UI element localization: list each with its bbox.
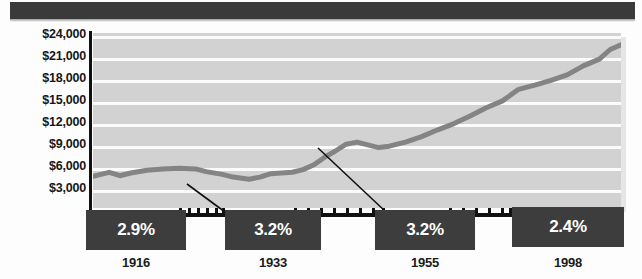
x-axis-label-1998: 1998 [512,255,624,270]
rate-value: 2.9% [117,220,155,240]
rate-value: 3.2% [254,220,292,240]
plot-area [93,33,621,208]
rate-box-1916: 2.9% [86,210,186,250]
rate-box-1955: 3.2% [375,210,475,250]
y-axis-tick-labels: $24,000 $21,000 $18,000 $15,000 $12,000 … [8,28,86,204]
y-tick-label: $15,000 [8,94,86,107]
y-tick-label: $3,000 [8,182,86,195]
rate-box-1933: 3.2% [225,210,321,250]
chart-figure: $24,000 $21,000 $18,000 $15,000 $12,000 … [0,0,642,279]
y-tick-label: $6,000 [8,160,86,173]
y-tick-label: $24,000 [8,28,86,41]
y-tick-label: $21,000 [8,50,86,63]
rate-value: 2.4% [549,217,587,237]
header-banner-bar [10,2,635,19]
rate-box-1998: 2.4% [512,207,624,247]
y-tick-label: $9,000 [8,138,86,151]
header-banner-shadow [10,19,635,22]
y-tick-label: $18,000 [8,72,86,85]
series-line [93,33,621,208]
y-axis-line [89,31,92,211]
plot-edge-shadow [621,37,626,212]
x-axis-label-1955: 1955 [375,255,475,270]
x-axis-label-1933: 1933 [225,255,321,270]
rate-value: 3.2% [406,220,444,240]
y-tick-label: $12,000 [8,116,86,129]
x-axis-label-1916: 1916 [86,255,186,270]
